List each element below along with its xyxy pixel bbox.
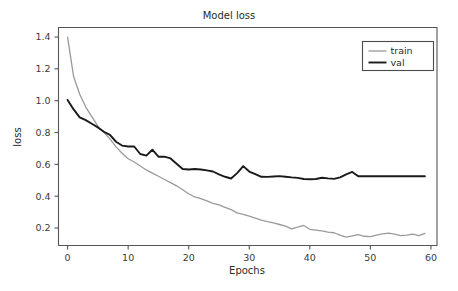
x-tick-label: 40 (304, 252, 316, 263)
chart-title: Model loss (203, 10, 256, 21)
figure-canvas: 0102030405060 0.20.40.60.81.01.21.4 trai… (0, 0, 458, 291)
x-tick-label: 30 (243, 252, 255, 263)
y-tick-label: 0.8 (35, 127, 50, 138)
y-tick-label: 1.0 (35, 95, 50, 106)
legend-label-train: train (391, 45, 413, 56)
y-tick-label: 1.2 (35, 63, 50, 74)
y-tick-label: 0.2 (35, 222, 50, 233)
model-loss-chart: 0102030405060 0.20.40.60.81.01.21.4 trai… (0, 0, 458, 291)
x-axis-label: Epochs (229, 265, 265, 276)
y-tick-label: 0.6 (35, 159, 50, 170)
x-tick-label: 50 (364, 252, 376, 263)
legend-label-val: val (391, 57, 405, 68)
y-tick-label: 0.4 (35, 191, 50, 202)
x-tick-label: 20 (183, 252, 195, 263)
x-tick-label: 0 (65, 252, 71, 263)
x-tick-label: 60 (425, 252, 437, 263)
legend[interactable]: trainval (363, 42, 434, 71)
y-axis-label: loss (12, 127, 23, 146)
x-tick-label: 10 (122, 252, 134, 263)
y-tick-label: 1.4 (35, 31, 50, 42)
